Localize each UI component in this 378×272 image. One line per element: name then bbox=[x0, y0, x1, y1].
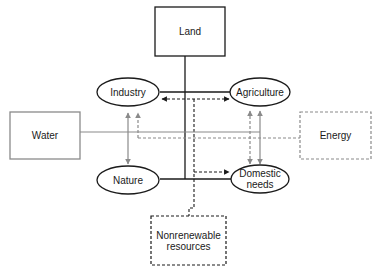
nature-text: Nature bbox=[113, 175, 143, 186]
domestic-label: Domestic needs bbox=[231, 165, 289, 193]
industry-label: Industry bbox=[97, 78, 159, 106]
land-label: Land bbox=[155, 7, 225, 56]
domestic-text-line2: needs bbox=[246, 179, 273, 190]
agriculture-label: Agriculture bbox=[230, 78, 290, 106]
nonrenewable-vertical-connector bbox=[189, 99, 194, 216]
agriculture-text: Agriculture bbox=[236, 87, 284, 98]
nonrenewable-label: Nonrenewable resources bbox=[151, 216, 226, 265]
nonrenewable-text-line2: resources bbox=[167, 241, 211, 252]
domestic-text-line1: Domestic bbox=[239, 168, 281, 179]
land-text: Land bbox=[179, 26, 201, 37]
nature-label: Nature bbox=[97, 166, 159, 194]
energy-label: Energy bbox=[300, 112, 371, 159]
water-label: Water bbox=[10, 112, 80, 159]
industry-text: Industry bbox=[110, 87, 146, 98]
nonrenewable-text-line1: Nonrenewable bbox=[156, 230, 221, 241]
water-text: Water bbox=[32, 130, 58, 141]
energy-text: Energy bbox=[320, 130, 352, 141]
